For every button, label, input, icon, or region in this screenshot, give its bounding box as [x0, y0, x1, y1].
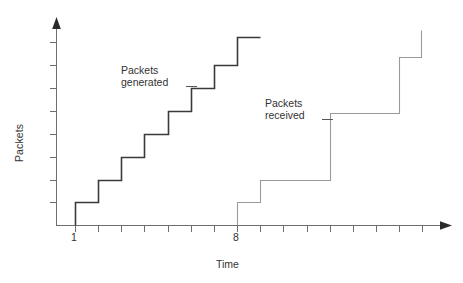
- y-axis-arrow-icon: [52, 17, 61, 29]
- annotation-received-line2: received: [265, 109, 305, 121]
- x-axis-title: Time: [216, 258, 239, 270]
- y-axis-group: [50, 17, 61, 226]
- y-axis-title: Packets: [13, 66, 25, 104]
- packets-vs-time-chart: Packets Time 1 8 Packets generated Packe…: [0, 0, 463, 283]
- annotation-packets-received: Packets received: [265, 97, 305, 121]
- x-tick-label-8: 8: [233, 231, 239, 243]
- annotation-generated-line1: Packets: [121, 64, 168, 76]
- annotation-generated-line2: generated: [121, 76, 168, 88]
- annotation-received-line1: Packets: [265, 97, 305, 109]
- y-axis-ticks: [50, 43, 57, 203]
- x-axis-group: [57, 221, 453, 232]
- y-axis-title-text: Packets: [13, 124, 25, 162]
- x-tick-label-1: 1: [71, 231, 77, 243]
- x-axis-arrow-icon: [440, 221, 452, 230]
- x-axis-ticks: [76, 226, 423, 233]
- chart-canvas: [0, 0, 463, 283]
- series-packets-received: [238, 31, 422, 226]
- annotation-packets-generated: Packets generated: [121, 64, 168, 88]
